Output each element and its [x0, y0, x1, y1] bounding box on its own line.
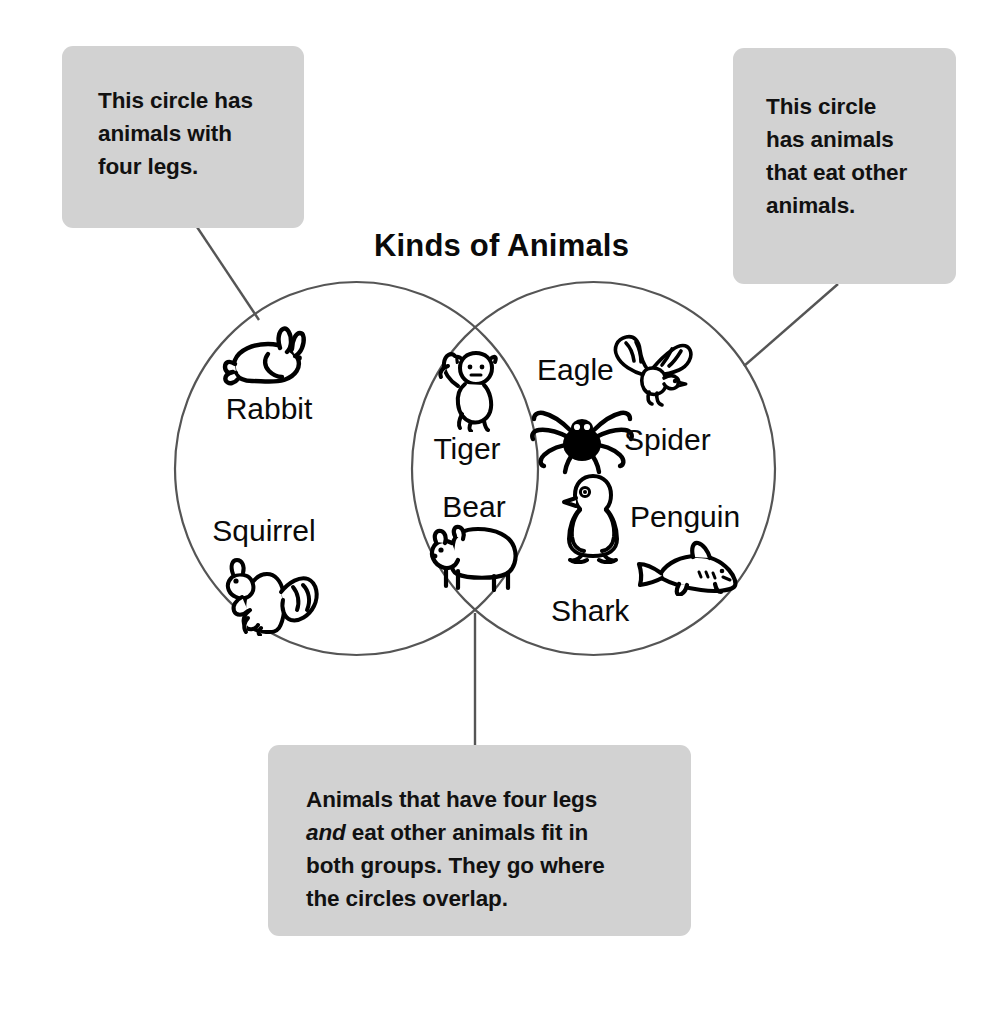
- callout-line: has animals: [766, 123, 956, 156]
- callout-line: This circle: [766, 90, 956, 123]
- callout-line: both groups. They go where: [306, 849, 691, 882]
- callout-line: four legs.: [98, 150, 304, 183]
- venn-diagram-page: Kinds of Animals Rabbit Squirrel: [0, 0, 1003, 1019]
- callout-left-circle: This circle has animals with four legs.: [62, 46, 304, 228]
- callout-overlap: Animals that have four legs and eat othe…: [268, 745, 691, 936]
- callout-line-rest: eat other animals fit in: [346, 820, 589, 845]
- callout-line: animals with: [98, 117, 304, 150]
- bear-icon: [424, 522, 524, 592]
- venn-item-label: Spider: [624, 425, 711, 455]
- callout-line: Animals that have four legs: [306, 783, 691, 816]
- callout-line: the circles overlap.: [306, 882, 691, 915]
- venn-item-label: Shark: [551, 596, 629, 626]
- venn-item-spider[interactable]: Spider: [530, 404, 711, 476]
- callout-line: that eat other: [766, 156, 956, 189]
- venn-item-bear[interactable]: Bear: [424, 492, 524, 592]
- venn-item-label: Penguin: [630, 502, 740, 532]
- eagle-icon: [608, 332, 694, 408]
- venn-item-shark[interactable]: Shark: [551, 540, 743, 622]
- venn-item-label: Eagle: [537, 355, 614, 385]
- rabbit-icon: [222, 326, 316, 392]
- tiger-icon: [424, 348, 510, 432]
- venn-item-label: Rabbit: [226, 394, 313, 424]
- squirrel-icon: [205, 548, 323, 636]
- callout-emphasis: and: [306, 820, 346, 845]
- venn-item-rabbit[interactable]: Rabbit: [222, 326, 316, 424]
- venn-item-label: Bear: [442, 492, 505, 522]
- callout-line: animals.: [766, 189, 956, 222]
- callout-right-circle: This circle has animals that eat other a…: [733, 48, 956, 284]
- venn-item-squirrel[interactable]: Squirrel: [205, 516, 323, 636]
- shark-icon: [631, 540, 743, 596]
- callout-line: This circle has: [98, 84, 304, 117]
- venn-item-label: Tiger: [433, 434, 500, 464]
- spider-icon: [530, 404, 634, 476]
- venn-item-label: Squirrel: [212, 516, 315, 546]
- venn-item-eagle[interactable]: Eagle: [537, 332, 694, 408]
- callout-line: and eat other animals fit in: [306, 816, 691, 849]
- venn-item-tiger[interactable]: Tiger: [424, 348, 510, 464]
